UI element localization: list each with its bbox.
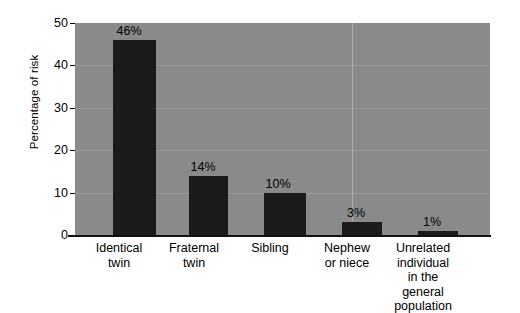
y-tick-label-20: 20 — [42, 144, 68, 156]
bar-identical-twin — [113, 40, 156, 235]
y-tick-label-30: 30 — [42, 102, 68, 114]
category-line: in the — [383, 270, 463, 285]
category-line: Nephew — [307, 241, 387, 256]
data-label-fraternal-twin: 14% — [163, 161, 243, 174]
data-label-unrelated: 1% — [392, 216, 472, 229]
category-label-nephew-or-niece: Nephew or niece — [307, 241, 387, 270]
category-line: population — [383, 299, 463, 313]
bar-chart-figure: Percentage of risk 50 40 30 20 10 0 46% … — [0, 0, 520, 313]
plot-area — [75, 23, 490, 235]
category-line: twin — [79, 256, 159, 271]
data-label-sibling: 10% — [238, 178, 318, 191]
x-axis-line — [68, 235, 491, 237]
bar-sibling — [264, 193, 306, 235]
y-tick-label-0: 0 — [42, 229, 68, 241]
data-label-identical-twin: 46% — [89, 25, 169, 38]
category-line: Sibling — [230, 241, 310, 256]
y-axis-ticks: 50 40 30 20 10 0 — [40, 0, 68, 313]
category-label-sibling: Sibling — [230, 241, 310, 256]
bar-nephew-or-niece — [342, 222, 382, 235]
category-label-identical-twin: Identical twin — [79, 241, 159, 270]
y-tick-label-40: 40 — [42, 59, 68, 71]
data-label-nephew-or-niece: 3% — [316, 207, 396, 220]
category-line: twin — [154, 256, 234, 271]
category-label-unrelated: Unrelated individual in the general popu… — [383, 241, 463, 313]
category-line: Unrelated — [383, 241, 463, 256]
vertical-gridline — [352, 23, 353, 235]
category-label-fraternal-twin: Fraternal twin — [154, 241, 234, 270]
y-tick-label-50: 50 — [42, 17, 68, 29]
category-line: individual — [383, 256, 463, 271]
category-line: Fraternal — [154, 241, 234, 256]
y-tick-label-10: 10 — [42, 187, 68, 199]
bar-fraternal-twin — [189, 176, 228, 235]
category-line: or niece — [307, 256, 387, 271]
y-axis-title: Percentage of risk — [28, 32, 40, 172]
category-line: general — [383, 285, 463, 300]
category-line: Identical — [79, 241, 159, 256]
